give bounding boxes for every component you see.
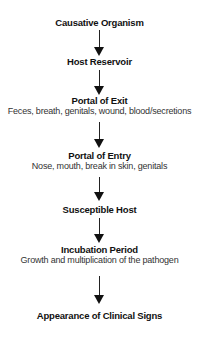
step-title: Causative Organism bbox=[0, 17, 199, 28]
step-subtitle: Nose, mouth, break in skin, genitals bbox=[0, 161, 199, 172]
step-incubation-period: Incubation Period Growth and multiplicat… bbox=[0, 244, 199, 266]
step-appearance-of-clinical-signs: Appearance of Clinical Signs bbox=[0, 310, 199, 321]
step-subtitle: Growth and multiplication of the pathoge… bbox=[0, 255, 199, 266]
step-title: Portal of Exit bbox=[0, 95, 199, 106]
step-causative-organism: Causative Organism bbox=[0, 17, 199, 28]
step-portal-of-entry: Portal of Entry Nose, mouth, break in sk… bbox=[0, 150, 199, 172]
step-title: Susceptible Host bbox=[0, 204, 199, 215]
step-subtitle: Feces, breath, genitals, wound, blood/se… bbox=[0, 106, 199, 117]
step-title: Host Reservoir bbox=[0, 56, 199, 67]
step-title: Appearance of Clinical Signs bbox=[0, 310, 199, 321]
step-title: Portal of Entry bbox=[0, 150, 199, 161]
step-host-reservoir: Host Reservoir bbox=[0, 56, 199, 67]
step-portal-of-exit: Portal of Exit Feces, breath, genitals, … bbox=[0, 95, 199, 117]
step-title: Incubation Period bbox=[0, 244, 199, 255]
step-susceptible-host: Susceptible Host bbox=[0, 204, 199, 215]
